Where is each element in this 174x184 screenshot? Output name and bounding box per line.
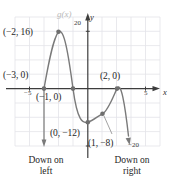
- label-maximum-point: (−2, 16): [3, 28, 33, 38]
- y-tick-minus20: −20: [128, 142, 139, 149]
- x-tick-minus5: −5: [24, 90, 31, 97]
- caption-left-line1: Down on: [10, 155, 82, 166]
- caption-down-on-right: Down on right: [96, 155, 168, 177]
- label-root-mid: (−1, 0): [36, 93, 61, 103]
- x-axis-label: x: [163, 88, 167, 97]
- caption-left-line2: left: [10, 166, 82, 177]
- graph-figure: g(x) y x 20 −20 −5 5 (−2, 16) (−3, 0) (−…: [0, 0, 174, 184]
- y-axis-label: y: [90, 13, 94, 22]
- function-label: g(x): [57, 10, 72, 19]
- point-y-intercept: [86, 120, 91, 125]
- point-maximum: [56, 30, 61, 35]
- caption-down-on-left: Down on left: [10, 155, 82, 177]
- point-inflection: [100, 112, 105, 117]
- point-root-left: [42, 86, 47, 91]
- y-tick-20: 20: [74, 20, 81, 27]
- point-root-right: [115, 86, 120, 91]
- y-axis: [85, 13, 90, 158]
- caption-right-line2: right: [96, 166, 168, 177]
- label-root-right: (2, 0): [100, 72, 120, 82]
- label-root-left: (−3, 0): [3, 71, 28, 81]
- x-tick-5: 5: [144, 90, 148, 97]
- label-inflection-point: (1, −8): [88, 139, 113, 149]
- label-y-intercept: (0, −12): [50, 129, 80, 139]
- point-root-mid: [71, 86, 76, 91]
- caption-right-line1: Down on: [96, 155, 168, 166]
